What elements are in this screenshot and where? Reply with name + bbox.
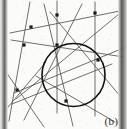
vertex-left-mid	[22, 43, 25, 46]
geometry-diagram	[0, 0, 127, 129]
vertex-lower-left	[15, 88, 18, 91]
vertex-top-right	[93, 11, 96, 14]
vertex-circle-top	[55, 43, 58, 46]
vertex-top-left	[29, 25, 32, 28]
subfigure-caption: (b)	[105, 116, 118, 127]
vertex-circle-bottom	[64, 99, 67, 102]
figure-container: (b)	[0, 0, 127, 129]
vertex-circle-right	[96, 58, 99, 61]
vertex-top-center	[55, 13, 58, 16]
